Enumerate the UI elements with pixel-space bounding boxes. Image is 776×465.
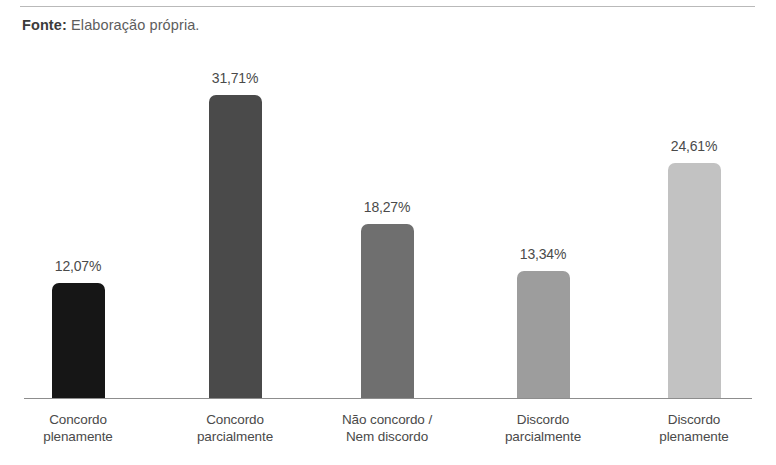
bar-value-label-4: 13,34% xyxy=(493,246,593,262)
tick-label-line: Discordo xyxy=(624,411,764,428)
bar-value-label-5: 24,61% xyxy=(644,138,744,154)
x-tick-label-5: Discordoplenamente xyxy=(624,411,764,445)
x-tick-label-4: Discordoparcialmente xyxy=(473,411,613,445)
bar-5 xyxy=(668,163,721,398)
tick-label-line: parcialmente xyxy=(165,428,305,445)
bar-value-label-3: 18,27% xyxy=(337,199,437,215)
tick-label-line: plenamente xyxy=(624,428,764,445)
x-tick-label-1: Concordoplenamente xyxy=(8,411,148,445)
bar-value-label-2: 31,71% xyxy=(185,70,285,86)
tick-label-line: Não concordo / xyxy=(317,411,457,428)
tick-label-line: Concordo xyxy=(8,411,148,428)
bar-3 xyxy=(361,224,414,398)
bar-4 xyxy=(517,271,570,398)
bar-2 xyxy=(209,95,262,398)
bar-chart-plot: 12,07%31,71%18,27%13,34%24,61% Concordop… xyxy=(0,0,776,465)
bar-value-label-1: 12,07% xyxy=(28,258,128,274)
x-tick-label-2: Concordoparcialmente xyxy=(165,411,305,445)
tick-label-line: Discordo xyxy=(473,411,613,428)
bar-1 xyxy=(52,283,105,398)
tick-label-line: Concordo xyxy=(165,411,305,428)
chart-page: Fonte: Elaboração própria. 12,07%31,71%1… xyxy=(0,0,776,465)
tick-label-line: parcialmente xyxy=(473,428,613,445)
x-tick-label-3: Não concordo /Nem discordo xyxy=(317,411,457,445)
tick-label-line: Nem discordo xyxy=(317,428,457,445)
x-axis-baseline xyxy=(24,398,752,399)
tick-label-line: plenamente xyxy=(8,428,148,445)
